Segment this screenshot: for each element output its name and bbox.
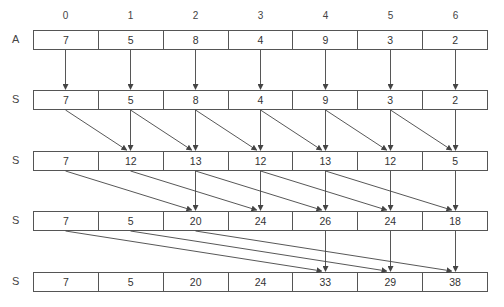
arrow [261, 171, 387, 210]
arrow [196, 231, 452, 271]
arrow [66, 110, 127, 150]
arrow [131, 231, 387, 271]
arrow [131, 110, 192, 150]
arrow [196, 110, 257, 150]
arrow [66, 231, 322, 271]
arrow [131, 171, 257, 210]
arrow [391, 110, 452, 150]
arrow [326, 110, 387, 150]
arrow [261, 110, 322, 150]
arrow-layer [0, 0, 504, 307]
arrow [196, 171, 322, 210]
arrow [326, 171, 452, 210]
arrow [66, 171, 192, 210]
